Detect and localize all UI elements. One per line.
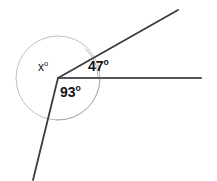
upper-right-ray (58, 10, 178, 78)
lower-left-ray (33, 78, 58, 180)
angle-label-47: 47o (88, 58, 109, 73)
degree-symbol-x: o (44, 59, 48, 68)
degree-symbol-93: o (76, 83, 81, 93)
angle-label-47-value: 47 (88, 58, 104, 74)
degree-symbol-47: o (104, 57, 109, 67)
angle-label-93: 93o (60, 84, 81, 99)
angle-diagram-figure: xo 47o 93o (0, 0, 217, 181)
angle-label-93-value: 93 (60, 84, 76, 100)
diagram-canvas (0, 0, 217, 181)
angle-label-x: xo (38, 60, 48, 73)
